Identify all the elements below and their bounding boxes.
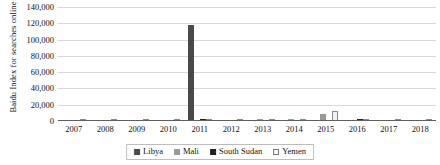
legend-label: Libya	[143, 146, 163, 157]
legend-item-yemen[interactable]: Yemen	[273, 146, 306, 157]
bar-group-2009	[121, 7, 153, 121]
bar-group-2014	[279, 7, 311, 121]
bar-group-2018	[405, 7, 437, 121]
chart-legend: LibyaMaliSouth SudanYemen	[126, 144, 314, 160]
y-axis-tick-label: 100,000	[0, 36, 54, 45]
plot-area	[58, 7, 436, 121]
bar-group-2012	[216, 7, 248, 121]
y-axis-tick-label: 20,000	[0, 101, 54, 110]
bar-group-2015	[310, 7, 342, 121]
bar-group-2007	[58, 7, 90, 121]
y-axis-tick-label: 120,000	[0, 19, 54, 28]
legend-label: Mali	[183, 146, 199, 157]
bar-group-2013	[247, 7, 279, 121]
baidu-index-bar-chart: Baidu Index for searches online 140,0001…	[0, 0, 440, 165]
bar-group-2016	[342, 7, 374, 121]
axis-baseline	[58, 120, 436, 121]
legend-label: Yemen	[282, 146, 306, 157]
y-axis-tick-label: 140,000	[0, 3, 54, 12]
x-axis-tick-label-2018: 2018	[400, 124, 440, 135]
x-axis-tick-labels: 2007200820092010201120122013201420152016…	[58, 124, 436, 138]
legend-item-southsudan[interactable]: South Sudan	[210, 146, 262, 157]
y-axis-tick-label: 60,000	[0, 68, 54, 77]
bar-libya-2011	[188, 25, 194, 121]
legend-swatch-mali-icon	[174, 149, 180, 155]
bar-group-2017	[373, 7, 405, 121]
legend-swatch-yemen-icon	[273, 149, 279, 155]
y-axis-tick-label: 40,000	[0, 84, 54, 93]
legend-item-libya[interactable]: Libya	[134, 146, 163, 157]
legend-swatch-southsudan-icon	[210, 149, 216, 155]
legend-swatch-libya-icon	[134, 149, 140, 155]
bar-group-2011	[184, 7, 216, 121]
bar-group-2010	[153, 7, 185, 121]
y-axis-tick-label: 0	[0, 117, 54, 126]
legend-label: South Sudan	[219, 146, 262, 157]
legend-item-mali[interactable]: Mali	[174, 146, 199, 157]
bar-group-2008	[90, 7, 122, 121]
y-axis-tick-label: 80,000	[0, 52, 54, 61]
